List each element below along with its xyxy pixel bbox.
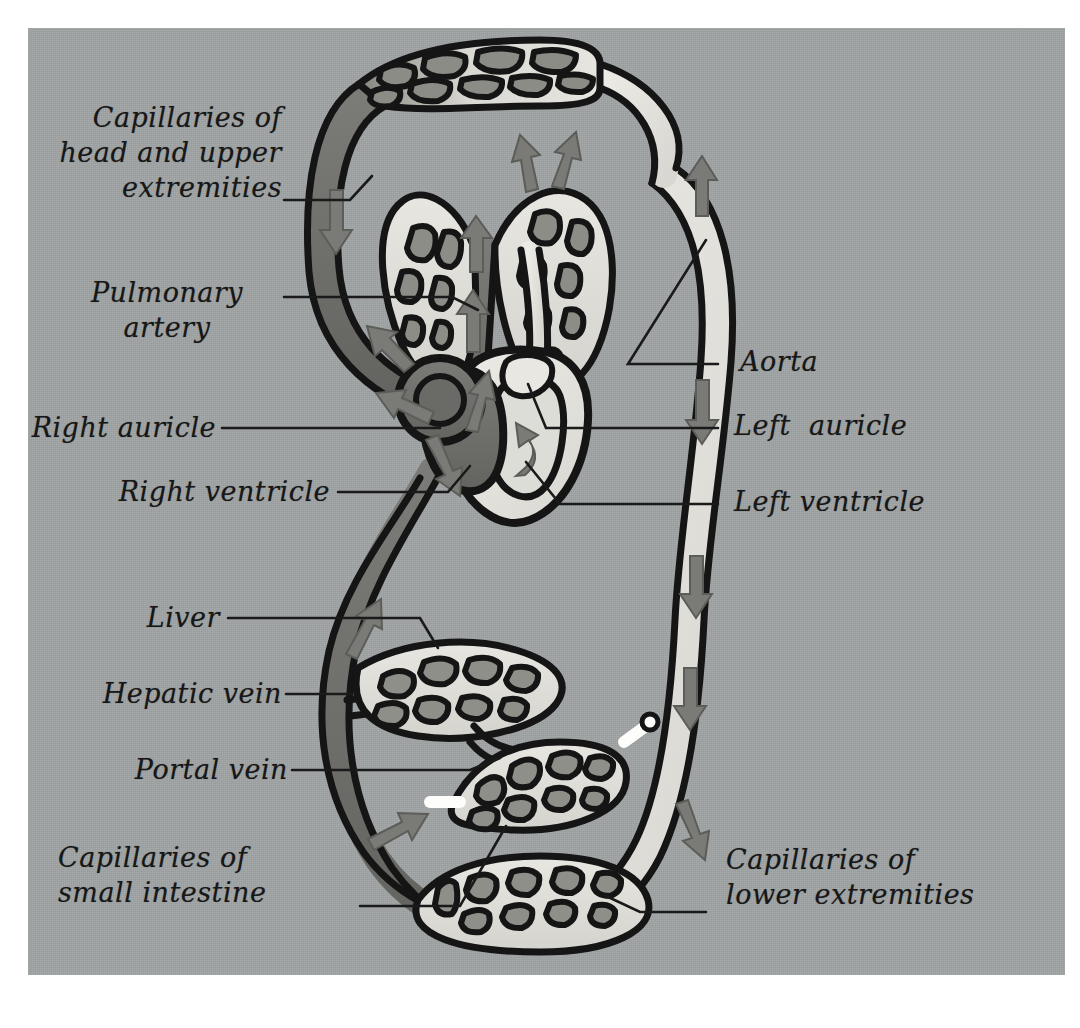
capillaries-lower-extremities [416, 856, 649, 952]
left-auricle-chamber [502, 355, 552, 396]
arrow-right-lung-up [552, 132, 581, 189]
arrow-left-lung-up [512, 135, 540, 192]
arrow-aorta-down-4 [676, 800, 709, 860]
label-portal-vein: Portal vein [20, 752, 288, 787]
label-hepatic-vein: Hepatic vein [20, 676, 282, 711]
label-capillaries-small-intestine: Capillaries of small intestine [58, 840, 378, 910]
label-aorta: Aorta [740, 344, 940, 379]
label-left-ventricle: Left ventricle [734, 484, 1024, 519]
label-capillaries-head: Capillaries of head and upper extremitie… [40, 100, 282, 205]
aortic-arch-to-head [600, 64, 679, 183]
label-liver: Liver [20, 600, 220, 635]
liver [356, 642, 562, 738]
label-capillaries-lower: Capillaries of lower extremities [726, 842, 1056, 912]
label-pulmonary-artery: Pulmonary artery [52, 275, 282, 345]
capillaries-head-upper-extremities [359, 40, 600, 109]
label-right-auricle: Right auricle [20, 410, 216, 445]
label-left-auricle: Left auricle [734, 408, 1014, 443]
label-right-ventricle: Right ventricle [20, 474, 330, 509]
